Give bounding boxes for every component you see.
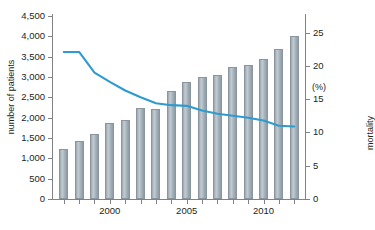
x-axis-tick — [110, 200, 111, 204]
bar — [167, 91, 176, 199]
bar — [213, 75, 222, 199]
y-axis-right-tick-label: 20 — [313, 60, 324, 71]
x-axis-tick — [248, 200, 249, 204]
x-axis-tick — [79, 200, 80, 204]
y-axis-left-tick-label: 2,500 — [21, 91, 45, 102]
bar — [244, 65, 253, 199]
x-axis-tick — [233, 200, 234, 204]
plot-area — [53, 16, 305, 199]
x-axis-tick — [279, 200, 280, 204]
y-axis-left-tick — [48, 158, 52, 159]
y-axis-left-tick-label: 1,000 — [21, 152, 45, 163]
x-axis-tick — [94, 200, 95, 204]
y-axis-right-tick-label: 5 — [313, 160, 318, 171]
y-axis-left-tick-label: 4,500 — [21, 10, 45, 21]
y-axis-right-title: mortality — [365, 73, 375, 193]
bar — [290, 36, 299, 199]
bar — [75, 141, 84, 199]
y-axis-left-tick-label: 3,000 — [21, 71, 45, 82]
y-axis-right-line — [305, 14, 306, 200]
y-axis-left-line — [52, 14, 53, 200]
bar — [59, 149, 68, 199]
y-axis-right-tick-label: 0 — [313, 193, 318, 204]
y-axis-left-tick — [48, 118, 52, 119]
y-axis-right-tick — [306, 33, 310, 34]
bar — [182, 82, 191, 199]
y-axis-left-tick — [48, 179, 52, 180]
x-axis-line — [52, 199, 306, 200]
y-axis-left-tick — [48, 16, 52, 17]
x-axis-tick — [171, 200, 172, 204]
y-axis-right-tick — [306, 66, 310, 67]
bar — [121, 120, 130, 199]
x-axis-tick — [217, 200, 218, 204]
y-axis-left-tick — [48, 77, 52, 78]
y-axis-left-tick-label: 4,000 — [21, 30, 45, 41]
bar — [90, 134, 99, 199]
y-axis-right-tick-label: 10 — [313, 126, 324, 137]
x-axis-tick — [264, 200, 265, 204]
y-axis-left-tick-label: 2,000 — [21, 112, 45, 123]
y-axis-left-tick — [48, 199, 52, 200]
bar — [151, 109, 160, 199]
y-axis-right-tick-label: 15 — [313, 93, 324, 104]
y-axis-left-tick-label: 3,500 — [21, 51, 45, 62]
x-axis-tick — [141, 200, 142, 204]
bar — [198, 77, 207, 199]
bar — [274, 49, 283, 199]
bar — [136, 108, 145, 199]
y-axis-left-tick-label: 1,500 — [21, 132, 45, 143]
y-axis-right-tick — [306, 132, 310, 133]
y-axis-left-tick-label: 0 — [40, 193, 45, 204]
y-axis-right-tick — [306, 199, 310, 200]
bar — [259, 59, 268, 199]
x-axis-tick — [294, 200, 295, 204]
x-axis-tick-label: 2005 — [167, 205, 207, 216]
x-axis-tick — [64, 200, 65, 204]
x-axis-tick — [156, 200, 157, 204]
x-axis-tick-label: 2000 — [90, 205, 130, 216]
x-axis-tick — [187, 200, 188, 204]
y-axis-left-tick — [48, 57, 52, 58]
x-axis-tick — [202, 200, 203, 204]
y-axis-right-tick — [306, 99, 310, 100]
bar — [228, 67, 237, 199]
x-axis-tick-label: 2010 — [244, 205, 284, 216]
y-axis-left-tick-label: 500 — [29, 173, 45, 184]
y-axis-left-tick — [48, 138, 52, 139]
y-axis-right-unit: (%) — [312, 82, 326, 92]
x-axis-tick — [125, 200, 126, 204]
y-axis-left-tick — [48, 97, 52, 98]
y-axis-right-tick — [306, 166, 310, 167]
y-axis-left-tick — [48, 36, 52, 37]
y-axis-left-title: number of patients — [6, 37, 16, 157]
bar — [105, 123, 114, 199]
y-axis-right-tick-label: 25 — [313, 27, 324, 38]
